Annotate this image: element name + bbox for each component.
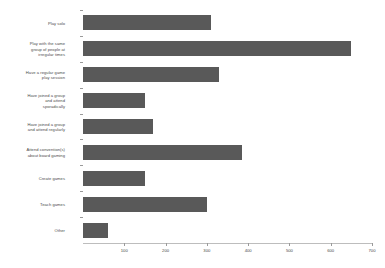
y-axis-label-line: Play solo	[0, 21, 65, 26]
bar[interactable]	[83, 197, 207, 212]
y-axis-label-line: about board gaming	[0, 153, 65, 158]
x-axis-tick	[289, 243, 290, 246]
y-axis-tick	[80, 114, 83, 115]
plot-area: Play soloPlay with the samegroup of peop…	[83, 10, 372, 243]
y-axis-label-line: play session	[0, 75, 65, 80]
bar[interactable]	[83, 171, 145, 186]
bar-row: Create games	[83, 165, 372, 191]
y-axis-label-line: Other	[0, 228, 65, 233]
x-axis-tick-label: 500	[286, 248, 293, 253]
y-axis-label: Teach games	[0, 202, 65, 207]
x-axis-tick-label: 200	[162, 248, 169, 253]
y-axis-tick	[80, 165, 83, 166]
x-axis-tick-label: 600	[327, 248, 334, 253]
y-axis-label: Play with the samegroup of people atirre…	[0, 41, 65, 57]
bar-row: Other	[83, 217, 372, 243]
y-axis-label-line: sporadically	[0, 104, 65, 109]
bar[interactable]	[83, 119, 153, 134]
bar-row: Have joined a groupand attendsporadicall…	[83, 88, 372, 114]
x-axis-tick	[331, 243, 332, 246]
bar[interactable]	[83, 67, 219, 82]
bar[interactable]	[83, 15, 211, 30]
bar[interactable]	[83, 41, 351, 56]
y-axis-label-line: and attend regularly	[0, 127, 65, 132]
bar-row: Play with the samegroup of people atirre…	[83, 36, 372, 62]
x-axis-tick	[166, 243, 167, 246]
x-axis-tick-label: 300	[203, 248, 210, 253]
bar-row: Have joined a groupand attend regularly	[83, 114, 372, 140]
y-axis-tick	[80, 88, 83, 89]
y-axis-tick	[80, 139, 83, 140]
bar-chart: Play soloPlay with the samegroup of peop…	[0, 0, 385, 268]
y-axis-label: Play solo	[0, 21, 65, 26]
x-axis-tick-label: 700	[369, 248, 376, 253]
y-axis-tick	[80, 62, 83, 63]
bar-row: Have a regular gameplay session	[83, 62, 372, 88]
bar[interactable]	[83, 145, 242, 160]
y-axis-label: Have joined a groupand attend regularly	[0, 122, 65, 133]
y-axis-label: Create games	[0, 176, 65, 181]
y-axis-label-line: Teach games	[0, 202, 65, 207]
y-axis-label: Have a regular gameplay session	[0, 70, 65, 81]
y-axis-tick	[80, 191, 83, 192]
bar-row: Attend convention(s)about board gaming	[83, 139, 372, 165]
x-axis-tick	[124, 243, 125, 246]
y-axis-label: Attend convention(s)about board gaming	[0, 147, 65, 158]
bar[interactable]	[83, 93, 145, 108]
bar-row: Teach games	[83, 191, 372, 217]
bar[interactable]	[83, 223, 108, 238]
x-axis-tick	[248, 243, 249, 246]
y-axis-label: Other	[0, 228, 65, 233]
x-axis-tick-label: 100	[121, 248, 128, 253]
y-axis-label-line: irregular times	[0, 52, 65, 57]
x-axis-tick	[372, 243, 373, 246]
y-axis-tick	[80, 217, 83, 218]
y-axis-label-line: Create games	[0, 176, 65, 181]
y-axis-tick	[80, 36, 83, 37]
x-axis-tick-label: 400	[245, 248, 252, 253]
x-axis-line	[83, 243, 373, 244]
y-axis-label: Have joined a groupand attendsporadicall…	[0, 93, 65, 109]
x-axis-tick	[207, 243, 208, 246]
y-axis-tick	[80, 10, 83, 11]
bar-row: Play solo	[83, 10, 372, 36]
